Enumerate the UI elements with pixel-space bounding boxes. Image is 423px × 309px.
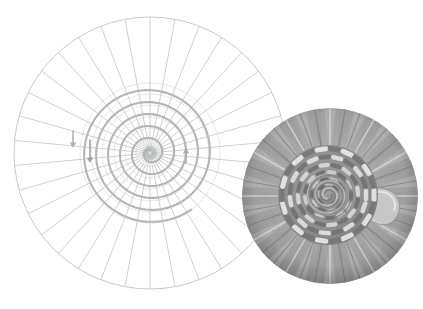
photo-film-grain (242, 108, 418, 284)
woven-basket-base-photo (0, 0, 423, 309)
photo-content (236, 102, 423, 290)
figure-canvas (0, 0, 423, 309)
